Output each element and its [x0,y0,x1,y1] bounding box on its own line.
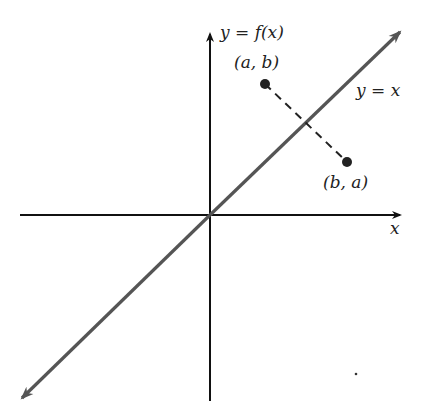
point-b-a-label: (b, a) [323,172,368,192]
diagram-canvas [0,0,429,420]
y-axis-label: y = f(x) [220,22,284,42]
identity-line-label: y = x [356,80,400,100]
point-a-b [260,79,270,89]
x-axis-label: x [390,218,400,238]
point-b-a [342,157,352,167]
point-a-b-label: (a, b) [234,52,279,72]
identity-line-lower [22,215,210,398]
speck [355,373,358,376]
